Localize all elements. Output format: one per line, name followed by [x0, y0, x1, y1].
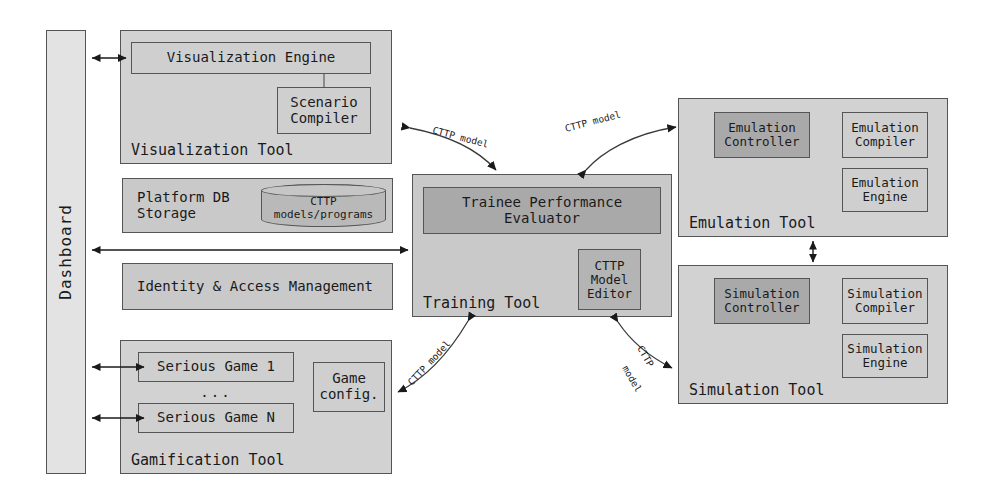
cttp-model-editor-box[interactable]: CTTP Model Editor — [578, 249, 641, 310]
label-training-gamification: CTTP model — [405, 338, 452, 387]
trainee-performance-evaluator-label: Trainee Performance Evaluator — [462, 195, 622, 226]
label-training-simulation-line1: CTTP — [635, 344, 656, 370]
simulation-tool-label: Simulation Tool — [679, 382, 824, 403]
arrow-visualization-training — [410, 128, 496, 170]
simulation-compiler-box[interactable]: Simulation Compiler — [842, 278, 928, 324]
serious-game-ellipsis: ... — [138, 384, 294, 400]
simulation-controller-label: Simulation Controller — [724, 287, 799, 315]
label-training-emulation: CTTP model — [564, 109, 622, 134]
simulation-engine-label: Simulation Engine — [847, 342, 922, 370]
trainee-performance-evaluator-box[interactable]: Trainee Performance Evaluator — [423, 187, 661, 234]
visualization-tool-label: Visualization Tool — [121, 142, 294, 163]
simulation-controller-box[interactable]: Simulation Controller — [714, 278, 810, 324]
architecture-diagram: Dashboard Visualization Tool Visualizati… — [0, 0, 1001, 494]
label-training-simulation-line2: model — [620, 364, 644, 394]
simulation-engine-box[interactable]: Simulation Engine — [842, 334, 928, 378]
emulation-compiler-label: Emulation Compiler — [851, 121, 919, 149]
arrow-training-emulation — [586, 127, 676, 170]
emulation-controller-label: Emulation Controller — [724, 121, 799, 149]
cttp-model-editor-label: CTTP Model Editor — [587, 259, 632, 301]
visualization-engine-label: Visualization Engine — [167, 50, 336, 66]
label-visualization-training: CTTP model — [431, 124, 489, 149]
serious-game-last-box[interactable]: Serious Game N — [138, 403, 294, 433]
dashboard-label: Dashboard — [57, 204, 75, 300]
cttp-models-database-icon: CTTP models/programs — [261, 184, 386, 227]
emulation-engine-box[interactable]: Emulation Engine — [842, 168, 928, 212]
game-config-label: Game config. — [319, 371, 378, 402]
training-tool-label: Training Tool — [413, 295, 540, 316]
gamification-tool-label: Gamification Tool — [121, 452, 285, 473]
identity-access-management-label: Identity & Access Management — [123, 279, 373, 295]
serious-game-first-label: Serious Game 1 — [157, 359, 275, 375]
simulation-compiler-label: Simulation Compiler — [847, 287, 922, 315]
arrow-training-simulation — [618, 322, 672, 368]
platform-db-label: Platform DB Storage — [123, 190, 230, 221]
emulation-engine-label: Emulation Engine — [851, 176, 919, 204]
cttp-models-label: CTTP models/programs — [274, 196, 373, 221]
serious-game-last-label: Serious Game N — [157, 410, 275, 426]
dashboard-panel[interactable]: Dashboard — [46, 30, 86, 474]
serious-game-first-box[interactable]: Serious Game 1 — [138, 352, 294, 382]
arrow-training-gamification — [398, 321, 468, 392]
scenario-compiler-label: Scenario Compiler — [290, 95, 357, 126]
identity-access-management-box[interactable]: Identity & Access Management — [122, 263, 393, 310]
visualization-engine-box[interactable]: Visualization Engine — [131, 42, 371, 74]
emulation-compiler-box[interactable]: Emulation Compiler — [842, 112, 928, 158]
game-config-box[interactable]: Game config. — [313, 362, 385, 412]
scenario-compiler-box[interactable]: Scenario Compiler — [277, 87, 371, 134]
emulation-controller-box[interactable]: Emulation Controller — [714, 112, 810, 158]
emulation-tool-label: Emulation Tool — [679, 215, 815, 236]
